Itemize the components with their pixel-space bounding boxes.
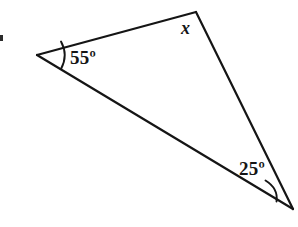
arc-left-vertex: [61, 42, 65, 70]
left-edge-speck-mark: [0, 35, 3, 41]
triangle-edges: [37, 12, 293, 209]
angle-label-55-degrees: 55º: [70, 48, 96, 67]
angle-label-unknown-x: x: [181, 19, 190, 37]
angle-label-25-degrees: 25º: [239, 159, 265, 178]
geometry-figure: 55º 25º x: [0, 0, 298, 227]
triangle-drawing: [0, 0, 298, 227]
top-edge: [37, 12, 196, 55]
